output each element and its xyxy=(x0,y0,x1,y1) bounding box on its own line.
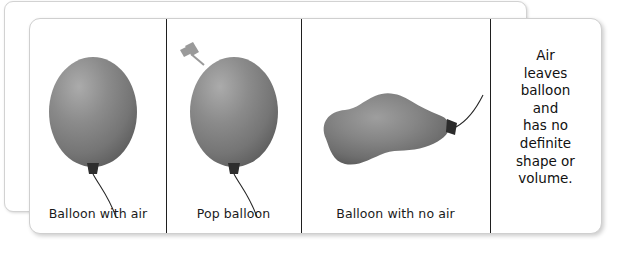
balloon-knot xyxy=(446,119,457,135)
air-note-line: has no xyxy=(490,117,601,135)
card-stack: Balloon with air xyxy=(0,0,623,257)
air-note-text: Air leaves balloon and has no definite s… xyxy=(490,47,601,188)
panel-caption: Balloon with no air xyxy=(301,206,490,221)
air-note-line: Air xyxy=(490,47,601,65)
panel-caption: Balloon with air xyxy=(30,206,166,221)
panel-air-leaves-note: Air leaves balloon and has no definite s… xyxy=(490,19,601,233)
pushpin-icon xyxy=(180,42,204,65)
balloon-body xyxy=(49,57,137,167)
deflated-balloon-illustration xyxy=(301,19,490,233)
panel-divider xyxy=(166,19,167,233)
air-note-line: and xyxy=(490,100,601,118)
panel-divider xyxy=(490,19,491,233)
air-note-line: leaves xyxy=(490,65,601,83)
deflated-balloon-body xyxy=(324,93,450,164)
panel-divider xyxy=(301,19,302,233)
air-note-line: volume. xyxy=(490,170,601,188)
air-note-line: balloon xyxy=(490,82,601,100)
panel-pop-balloon: Pop balloon xyxy=(166,19,301,233)
air-note-line: shape or xyxy=(490,153,601,171)
inflated-balloon-illustration xyxy=(30,19,166,233)
balloon-knot xyxy=(228,163,240,174)
diagram-card: Balloon with air xyxy=(29,18,602,234)
inflated-balloon-with-pin-illustration xyxy=(166,19,301,233)
panel-balloon-with-no-air: Balloon with no air xyxy=(301,19,490,233)
balloon-string xyxy=(456,95,483,127)
panel-balloon-with-air: Balloon with air xyxy=(30,19,166,233)
panel-caption: Pop balloon xyxy=(166,206,301,221)
air-note-line: definite xyxy=(490,135,601,153)
balloon-body xyxy=(190,57,278,167)
balloon-knot xyxy=(87,163,99,174)
